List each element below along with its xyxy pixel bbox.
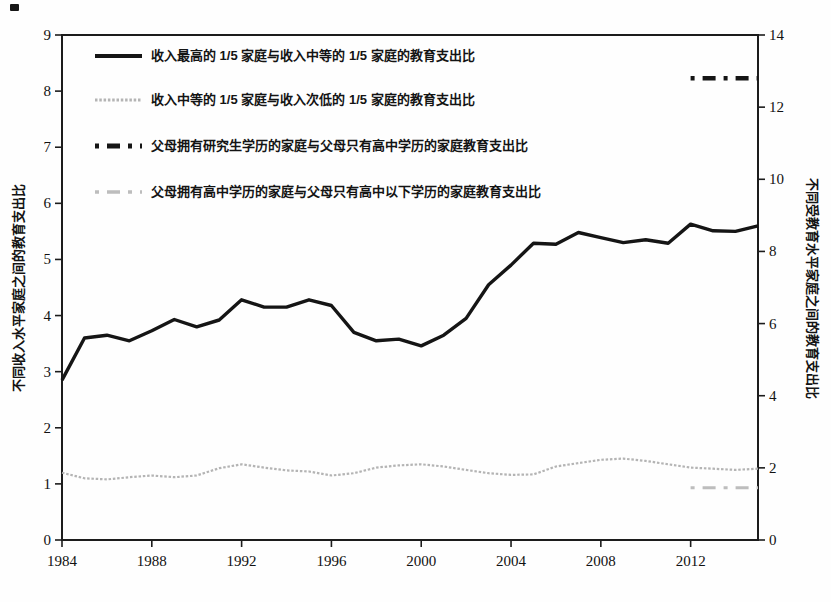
- x-tick-label: 2004: [496, 553, 527, 569]
- chart-page: 0123456789024681012141984198819921996200…: [0, 0, 831, 602]
- legend-label: 父母拥有高中学历的家庭与父母只有高中以下学历的家庭教育支出比: [151, 182, 541, 202]
- x-tick-label: 1992: [227, 553, 257, 569]
- right-tick-label: 2: [769, 460, 777, 476]
- left-tick-label: 5: [44, 251, 52, 267]
- x-tick-label: 2008: [586, 553, 616, 569]
- right-axis-title: 不同受教育水平家庭之间的教育支出比: [804, 178, 823, 399]
- left-axis-title: 不同收入水平家庭之间的教育支出比: [8, 184, 27, 392]
- x-tick-label: 1996: [316, 553, 347, 569]
- legend-item: 父母拥有高中学历的家庭与父母只有高中以下学历的家庭教育支出比: [95, 182, 541, 202]
- right-tick-label: 4: [769, 388, 777, 404]
- legend-sample-solid-black-icon: [95, 50, 142, 62]
- x-tick-label: 2000: [406, 553, 436, 569]
- legend-sample-dotted-gray-icon: [95, 94, 142, 106]
- left-tick-label: 2: [44, 420, 52, 436]
- left-tick-label: 3: [44, 364, 52, 380]
- left-tick-label: 7: [44, 139, 52, 155]
- plot-frame: [62, 35, 758, 540]
- legend-sample-dashed-gray-icon: [95, 186, 142, 198]
- left-tick-label: 1: [44, 476, 52, 492]
- legend-item: 收入中等的 1/5 家庭与收入次低的 1/5 家庭的教育支出比: [95, 90, 475, 110]
- x-tick-label: 1984: [47, 553, 78, 569]
- legend-item: 收入最高的 1/5 家庭与收入中等的 1/5 家庭的教育支出比: [95, 46, 475, 66]
- right-tick-label: 10: [769, 171, 784, 187]
- left-tick-label: 0: [44, 532, 52, 548]
- right-tick-label: 12: [769, 99, 784, 115]
- x-tick-label: 1988: [137, 553, 167, 569]
- legend-label: 父母拥有研究生学历的家庭与父母只有高中学历的家庭教育支出比: [151, 136, 528, 156]
- left-tick-label: 6: [44, 195, 52, 211]
- legend-item: 父母拥有研究生学历的家庭与父母只有高中学历的家庭教育支出比: [95, 136, 528, 156]
- left-tick-label: 4: [44, 308, 52, 324]
- left-tick-label: 8: [44, 83, 52, 99]
- series-line-0: [62, 224, 758, 380]
- scan-artifact: [10, 4, 19, 11]
- series-line-1: [62, 459, 758, 480]
- right-tick-label: 8: [769, 243, 777, 259]
- right-tick-label: 0: [769, 532, 777, 548]
- right-tick-label: 14: [769, 27, 785, 43]
- x-tick-label: 2012: [676, 553, 706, 569]
- left-tick-label: 9: [44, 27, 52, 43]
- right-tick-label: 6: [769, 316, 777, 332]
- legend-label: 收入最高的 1/5 家庭与收入中等的 1/5 家庭的教育支出比: [151, 46, 475, 66]
- legend-sample-dashed-black-icon: [95, 140, 142, 152]
- legend-label: 收入中等的 1/5 家庭与收入次低的 1/5 家庭的教育支出比: [151, 90, 475, 110]
